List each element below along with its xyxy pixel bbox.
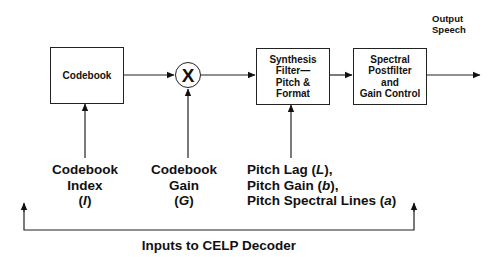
synthesis-line-3: Pitch & — [269, 77, 316, 89]
connection-lines — [0, 0, 492, 257]
pitch-lag-line: Pitch Lag (L), — [247, 162, 396, 178]
multiply-icon: X — [182, 66, 195, 85]
synthesis-line-2: Filter— — [269, 65, 316, 77]
inputs-caption: Inputs to CELP Decoder — [142, 238, 296, 254]
multiplier-node: X — [175, 62, 201, 88]
synthesis-line-4: Format — [269, 88, 316, 100]
codebook-index-label: Codebook Index (I) — [52, 162, 118, 209]
gain-symbol: G — [179, 193, 190, 208]
spectral-postfilter-block: Spectral Postfilter and Gain Control — [353, 48, 427, 105]
pitch-params-label: Pitch Lag (L), Pitch Gain (b), Pitch Spe… — [247, 162, 396, 209]
synthesis-filter-block: Synthesis Filter— Pitch & Format — [256, 48, 330, 105]
index-symbol: I — [83, 193, 87, 208]
output-speech-label: Output Speech — [432, 13, 466, 35]
spectral-line-4: Gain Control — [360, 88, 421, 100]
codebook-label: Codebook — [63, 70, 112, 82]
spectral-line-3: and — [360, 77, 421, 89]
spectral-line-2: Postfilter — [360, 65, 421, 77]
codebook-block: Codebook — [50, 47, 124, 104]
spectral-line-1: Spectral — [360, 54, 421, 66]
pitch-spectral-lines-line: Pitch Spectral Lines (a) — [247, 193, 396, 209]
codebook-gain-label: Codebook Gain (G) — [151, 162, 217, 209]
synthesis-line-1: Synthesis — [269, 54, 316, 66]
pitch-gain-line: Pitch Gain (b), — [247, 178, 396, 194]
